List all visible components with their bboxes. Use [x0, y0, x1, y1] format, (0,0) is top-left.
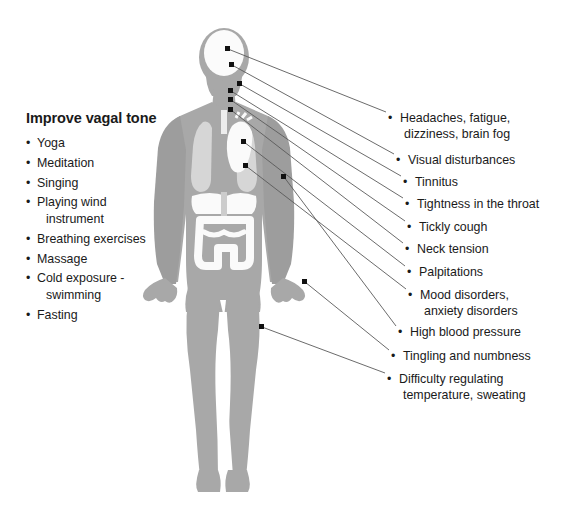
symptom-label-visual-disturbances: • Visual disturbances	[396, 152, 515, 168]
vagal-tone-infographic: Improve vagal tone • Yoga • Meditation •…	[0, 0, 566, 525]
bullet-glyph: •	[408, 287, 412, 303]
symptom-label-high-blood-pressure: • High blood pressure	[398, 324, 521, 340]
symptom-label-palpitations: • Palpitations	[407, 264, 483, 280]
symptom-label-tingling-and-numbness: • Tingling and numbness	[391, 348, 531, 364]
symptom-labels-group: • Headaches, fatigue,dizziness, brain fo…	[0, 0, 566, 525]
symptom-label-tightness-in-the-throat: • Tightness in the throat	[405, 196, 539, 212]
bullet-glyph: •	[388, 110, 392, 126]
symptom-text-line1: Palpitations	[419, 265, 483, 279]
symptom-text-line1: Visual disturbances	[408, 153, 515, 167]
symptom-text-line1: High blood pressure	[410, 325, 521, 339]
symptom-text-line1: Neck tension	[417, 242, 489, 256]
symptom-text-line1: Tickly cough	[419, 220, 487, 234]
symptom-text-line1: Mood disorders,	[420, 288, 509, 302]
symptom-text-line1: Tightness in the throat	[417, 197, 539, 211]
symptom-text-line1: Headaches, fatigue,	[400, 111, 510, 125]
symptom-label-mood-disorders-anxiety-disorders: • Mood disorders,anxiety disorders	[408, 287, 518, 320]
symptom-label-neck-tension: • Neck tension	[405, 241, 489, 257]
symptom-text-line2: temperature, sweating	[399, 387, 526, 403]
bullet-glyph: •	[396, 152, 400, 168]
symptom-text-line2: dizziness, brain fog	[400, 126, 510, 142]
bullet-glyph: •	[405, 241, 409, 257]
symptom-label-tickly-cough: • Tickly cough	[407, 219, 487, 235]
symptom-label-tinnitus: • Tinnitus	[403, 174, 458, 190]
symptom-label-headaches-fatigue-dizziness-brain-fog: • Headaches, fatigue,dizziness, brain fo…	[388, 110, 510, 143]
bullet-glyph: •	[407, 264, 411, 280]
symptom-text-line1: Tingling and numbness	[403, 349, 531, 363]
bullet-glyph: •	[407, 219, 411, 235]
bullet-glyph: •	[391, 348, 395, 364]
bullet-glyph: •	[398, 324, 402, 340]
bullet-glyph: •	[387, 371, 391, 387]
bullet-glyph: •	[403, 174, 407, 190]
symptom-text-line2: anxiety disorders	[420, 303, 518, 319]
bullet-glyph: •	[405, 196, 409, 212]
symptom-label-difficulty-regulating-temperature-sweating: • Difficulty regulatingtemperature, swea…	[387, 371, 526, 404]
symptom-text-line1: Tinnitus	[415, 175, 458, 189]
symptom-text-line1: Difficulty regulating	[399, 372, 503, 386]
